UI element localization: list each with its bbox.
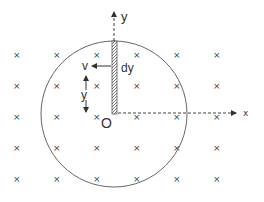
distance-label-y: y — [81, 88, 87, 102]
field-cross-icon: × — [133, 81, 141, 91]
conducting-rod — [112, 41, 117, 114]
field-cross-icon: × — [93, 81, 101, 91]
field-cross-icon: × — [93, 112, 101, 122]
field-cross-icon: × — [173, 50, 181, 60]
velocity-label: v — [82, 59, 88, 73]
field-cross-icon: × — [93, 174, 101, 184]
field-cross-icon: × — [53, 174, 61, 184]
y-axis-label: y — [121, 9, 128, 24]
field-cross-icon: × — [53, 50, 61, 60]
field-cross-icon: × — [13, 81, 21, 91]
field-cross-icon: × — [13, 112, 21, 122]
origin-label: O — [101, 115, 112, 131]
field-cross-icon: × — [133, 50, 141, 60]
field-cross-icon: × — [13, 143, 21, 153]
field-cross-icon: × — [133, 143, 141, 153]
field-cross-icon: × — [93, 50, 101, 60]
field-cross-icon: × — [93, 143, 101, 153]
field-cross-icon: × — [13, 174, 21, 184]
element-label-dy: dy — [121, 61, 134, 75]
field-cross-icon: × — [213, 143, 221, 153]
x-axis-label: x — [243, 108, 249, 118]
field-cross-icon: × — [53, 143, 61, 153]
field-cross-icon: × — [53, 112, 61, 122]
magnetic-field-diagram: ×××××××××××××××××××××××××××××× y x dy v … — [0, 0, 264, 202]
field-cross-icon: × — [173, 174, 181, 184]
field-cross-icon: × — [13, 50, 21, 60]
field-cross-icon: × — [213, 50, 221, 60]
field-cross-icon: × — [53, 81, 61, 91]
field-cross-icon: × — [213, 174, 221, 184]
field-cross-icon: × — [213, 81, 221, 91]
